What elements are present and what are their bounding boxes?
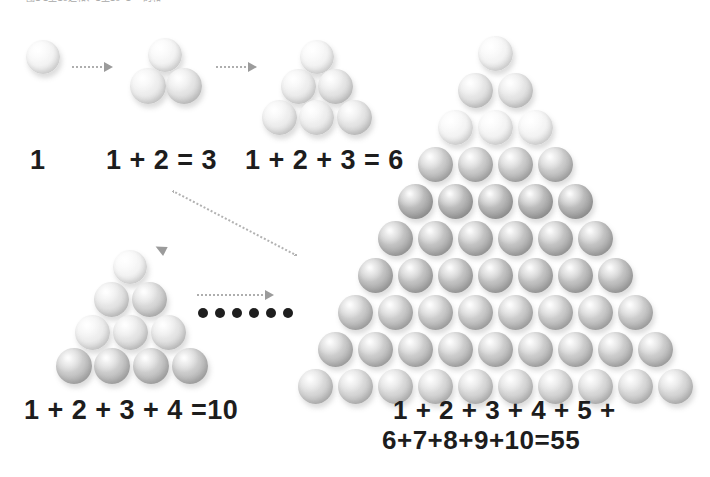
sphere-group-5-12 <box>438 184 473 219</box>
sphere-group-5-32 <box>458 295 493 330</box>
arrow-head-icon <box>104 62 113 72</box>
ellipsis-dot <box>198 308 208 318</box>
sphere-group-4-2 <box>94 282 129 317</box>
arrow-head-icon <box>265 290 274 300</box>
arrow-shaft <box>172 190 297 256</box>
sphere-group-5-11 <box>398 184 433 219</box>
sphere-group-5-6 <box>518 110 553 145</box>
sphere-group-5-3 <box>498 73 533 108</box>
sphere-group-3-5 <box>299 100 334 135</box>
sphere-group-5-17 <box>418 221 453 256</box>
arrow-shaft <box>197 294 267 296</box>
sphere-group-5-30 <box>378 295 413 330</box>
sphere-group-5-18 <box>458 221 493 256</box>
sphere-group-1-1 <box>26 40 60 74</box>
sphere-group-5-5 <box>478 110 513 145</box>
sphere-group-4-1 <box>113 250 147 284</box>
sphere-group-5-13 <box>478 184 513 219</box>
sphere-group-5-34 <box>538 295 573 330</box>
sphere-group-3-1 <box>300 40 334 74</box>
sphere-group-4-4 <box>75 315 110 350</box>
sphere-group-3-3 <box>318 69 353 104</box>
sphere-group-5-46 <box>298 369 333 404</box>
sphere-group-5-14 <box>518 184 553 219</box>
sphere-group-5-44 <box>598 332 633 367</box>
arrow-group4-to-group5 <box>197 290 279 300</box>
sphere-group-5-38 <box>358 332 393 367</box>
ellipsis-dot <box>215 308 225 318</box>
caption-group-5: 1 + 2 + 3 + 4 + 5 + 6+7+8+9+10=55 <box>393 395 616 455</box>
ellipsis-dots <box>198 308 293 318</box>
sphere-group-5-33 <box>498 295 533 330</box>
ellipsis-dot <box>266 308 276 318</box>
sphere-group-5-2 <box>458 73 493 108</box>
arrow-group3-to-group4-diagonal <box>155 186 289 262</box>
sphere-group-5-19 <box>498 221 533 256</box>
caption-group-2: 1 + 2 = 3 <box>106 145 217 176</box>
sphere-group-5-20 <box>538 221 573 256</box>
sphere-group-5-24 <box>438 258 473 293</box>
sphere-group-4-8 <box>94 348 130 384</box>
sphere-group-5-16 <box>378 221 413 256</box>
diagram-canvas: 图1 1至10之和、1至10+1 ─ 的和 1 1 + 2 = 3 1 + 2 … <box>0 0 710 477</box>
ellipsis-dot <box>232 308 242 318</box>
sphere-group-4-3 <box>132 282 167 317</box>
sphere-group-5-15 <box>558 184 593 219</box>
sphere-group-5-23 <box>398 258 433 293</box>
caption-group-5-line-2: 6+7+8+9+10=55 <box>382 425 616 455</box>
sphere-group-3-4 <box>262 100 297 135</box>
sphere-group-5-39 <box>398 332 433 367</box>
sphere-group-5-8 <box>458 147 493 182</box>
arrow-group1-to-group2 <box>72 62 116 72</box>
ellipsis-dot <box>249 308 259 318</box>
sphere-group-5-27 <box>558 258 593 293</box>
sphere-group-5-26 <box>518 258 553 293</box>
sphere-group-5-28 <box>598 258 633 293</box>
sphere-group-5-55 <box>658 369 693 404</box>
sphere-group-5-36 <box>618 295 653 330</box>
arrow-head-icon <box>153 242 167 256</box>
sphere-group-5-22 <box>358 258 393 293</box>
caption-group-1: 1 <box>30 145 46 176</box>
sphere-group-5-47 <box>338 369 373 404</box>
arrow-shaft <box>216 66 250 68</box>
ellipsis-dot <box>283 308 293 318</box>
arrow-shaft <box>72 66 106 68</box>
sphere-group-5-7 <box>418 147 453 182</box>
caption-group-4: 1 + 2 + 3 + 4 =10 <box>24 395 238 426</box>
sphere-group-5-9 <box>498 147 533 182</box>
sphere-group-5-42 <box>518 332 553 367</box>
sphere-group-5-1 <box>478 36 513 71</box>
sphere-group-5-41 <box>478 332 513 367</box>
sphere-group-5-40 <box>438 332 473 367</box>
sphere-group-4-9 <box>133 348 169 384</box>
sphere-group-4-7 <box>56 348 92 384</box>
caption-group-5-line-1: 1 + 2 + 3 + 4 + 5 + <box>393 395 616 425</box>
sphere-group-4-10 <box>172 348 208 384</box>
sphere-group-3-6 <box>337 100 372 135</box>
sphere-group-5-25 <box>478 258 513 293</box>
sphere-group-4-5 <box>113 315 148 350</box>
sphere-group-5-37 <box>318 332 353 367</box>
sphere-group-2-1 <box>148 38 182 72</box>
sphere-group-5-54 <box>618 369 653 404</box>
caption-group-3: 1 + 2 + 3 = 6 <box>245 145 404 176</box>
sphere-group-5-43 <box>558 332 593 367</box>
clipped-header-text: 图1 1至10之和、1至10+1 ─ 的和 <box>26 0 216 3</box>
sphere-group-3-2 <box>281 69 316 104</box>
arrow-head-icon <box>248 62 257 72</box>
sphere-group-5-31 <box>418 295 453 330</box>
sphere-group-5-29 <box>338 295 373 330</box>
sphere-group-5-4 <box>438 110 473 145</box>
sphere-group-4-6 <box>151 315 186 350</box>
sphere-group-5-21 <box>578 221 613 256</box>
arrow-group2-to-group3 <box>216 62 260 72</box>
sphere-group-2-2 <box>130 68 166 104</box>
sphere-group-5-35 <box>578 295 613 330</box>
sphere-group-5-10 <box>538 147 573 182</box>
sphere-group-5-45 <box>638 332 673 367</box>
sphere-group-2-3 <box>166 68 202 104</box>
